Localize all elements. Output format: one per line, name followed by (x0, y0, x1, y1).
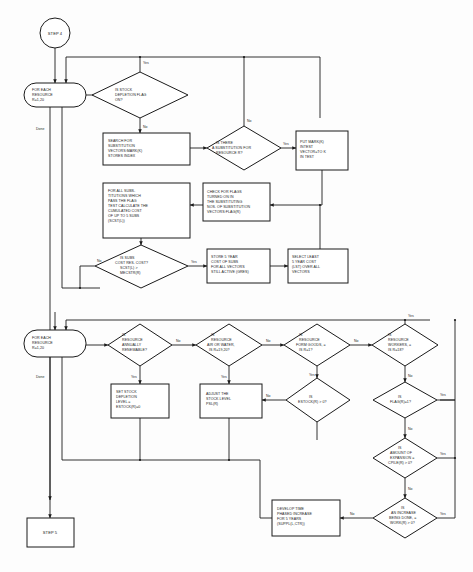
edge-label-done-1: Done (36, 127, 44, 131)
junction-dot-4 (319, 204, 321, 206)
node-p-search[interactable]: SEARCH FOR SUBSTITUTION VECTORS:MARK(K) … (103, 133, 190, 165)
junction-dot-3 (79, 287, 81, 289)
node-d-workers[interactable]: IS RESOURCE WORKERS, = IS R=18? (372, 324, 438, 366)
node-flagr-line2: FLAG(R)=1? (390, 400, 411, 404)
node-d-renewable[interactable]: IS RESOURCE ANNUALLY RENEWABLE? (108, 324, 172, 366)
node-adjuststock-line3: PSL(R) (206, 402, 218, 406)
connector-increase-yes (437, 458, 455, 518)
node-increase-line3: BEING DONE, = (389, 516, 416, 520)
edge-label-no-workers: No (408, 374, 413, 378)
node-d-stockflag[interactable]: IS STOCK DEPLETION FLAG ON? (92, 72, 188, 118)
node-workers-line2: RESOURCE (388, 338, 409, 342)
node-search-line3: VECTORS:MARK(K) (108, 149, 142, 153)
edge-label-no-estock: No (266, 394, 271, 398)
node-loop2[interactable]: FOR EACH RESOURCE R=1,20 (24, 330, 86, 357)
junction-dot (139, 56, 141, 58)
edge-label-no-increase: No (350, 512, 355, 516)
node-loop1-line2: RESOURCE (32, 93, 53, 97)
node-checkflags-line1: CHECK FOR FLAGS (207, 190, 242, 194)
node-flagr-line1: IS (398, 395, 402, 399)
node-adjuststock-line2: STOCK LEVEL (206, 397, 231, 401)
node-renewable-line4: RENEWABLE? (122, 348, 147, 352)
node-develop-line3: FOR 5 YEARS (277, 517, 302, 521)
node-p-setstock[interactable]: SET STOCK DEPLETION LEVEL = ESTOCK(R)=0 (111, 384, 169, 418)
node-forallsubs-line6: OF UP TO 5 SUBS (108, 214, 140, 218)
node-p-checkflags[interactable]: CHECK FOR FLAGS TURNED ON IN THE SUBSTIT… (203, 183, 270, 221)
node-formgoods-line1: IS (299, 333, 303, 337)
node-checkflags-line2: TURNED ON IN (207, 195, 234, 199)
node-expansion-line2: AMOUNT OF (390, 451, 413, 455)
node-p-develop[interactable]: DEVELOP TIME PHASED INCREASE FOR 5 YEARS… (272, 500, 340, 536)
node-workers-line4: IS R=18? (388, 348, 403, 352)
node-subscost-line2: COST RES. COST? (115, 261, 148, 265)
connector-develop-return (260, 460, 272, 518)
node-p-forallsubs[interactable]: FOR ALL SUBS- TITUTIONS WHICH PASS THE F… (103, 183, 190, 238)
node-d-subscost[interactable]: IS SUBS COST RES. COST? SCST(L) > MECSTR… (95, 245, 188, 288)
node-p-selectleast[interactable]: SELECT LEAST 5 YEAR COST (LST) OVER ALL … (288, 249, 348, 283)
node-setstock-line4: ESTOCK(R)=0 (116, 405, 140, 409)
junction-dot-5 (404, 319, 406, 321)
node-loop1[interactable]: FOR EACH RESOURCE R=1,20 (24, 83, 86, 107)
node-expansion-line3: EXPANSION = (390, 456, 414, 460)
node-d-flagr[interactable]: IS FLAG(R)=1? (373, 382, 437, 418)
node-setstock-line2: DEPLETION (116, 395, 137, 399)
node-d-formgoods[interactable]: IS RESOURCE FORM GOODS, = IS R=1? (284, 324, 350, 366)
node-d-estock[interactable]: IS ESTOCK(R) > 0? (286, 378, 350, 422)
edge-label-no-airwater: No (266, 339, 271, 343)
junction-dot-8 (454, 319, 456, 321)
node-d-expansion[interactable]: IS AMOUNT OF EXPANSION = CPILE(R) > 0? (373, 438, 437, 478)
node-loop2-line3: R=1,20 (32, 346, 44, 350)
edge-label-no-renewable: No (176, 339, 181, 343)
node-subscost-line4: MECSTR(R) (120, 271, 141, 275)
node-step4-label: STEP 4 (48, 31, 63, 36)
node-store5yr-line3: FOR ALL VECTORS (211, 265, 245, 269)
node-subscost-line1: IS SUBS (120, 256, 135, 260)
node-subexists-line1: IS THERE (216, 141, 233, 145)
node-increase-line1: IS (401, 506, 405, 510)
node-increase-line2: AN INCREASE (391, 511, 416, 515)
junction-dot-7 (228, 459, 230, 461)
node-step5[interactable]: STEP 5 (27, 518, 74, 547)
node-renewable-line3: ANNUALLY (122, 343, 142, 347)
node-loop2-line2: RESOURCE (32, 341, 53, 345)
node-formgoods-line2: RESOURCE (299, 338, 320, 342)
node-store5yr-line1: STORE 5 YEAR (211, 255, 238, 259)
edge-label-yes-workers: Yes (408, 314, 414, 318)
node-setstock-line1: SET STOCK (116, 390, 137, 394)
node-expansion-line1: IS (398, 446, 402, 450)
edge-label-yes-subscost: Yes (191, 260, 197, 264)
edge-label-yes-subexists: Yes (283, 142, 289, 146)
node-d-airwater[interactable]: IS RESOURCE AIR OR WATER, IS R=19,20? (196, 324, 262, 366)
node-develop-line4: (SUPPL(L,CTR)) (277, 522, 305, 526)
edge-label-yes-airwater: Yes (221, 375, 227, 379)
node-d-increase[interactable]: IS AN INCREASE BEING DONE, = WORK(R) > 0… (373, 498, 437, 538)
node-store5yr-line2: COST OF SUBS (211, 260, 239, 264)
node-develop-line1: DEVELOP TIME (277, 507, 305, 511)
node-forallsubs-line3: PASS THE FLAG (108, 199, 137, 203)
edge-label-done-2: Done (36, 375, 44, 379)
node-search-line1: SEARCH FOR (108, 139, 132, 143)
junction-dot-2 (243, 56, 245, 58)
node-putmark-line3: VECTOR=TO K (300, 150, 326, 154)
node-putmark-line4: IN TEST (300, 155, 315, 159)
connector-loop1-return (62, 107, 100, 288)
node-selectleast-line4: VECTORS (292, 270, 310, 274)
node-p-adjuststock[interactable]: ADJUST THE STOCK LEVEL PSL(R) (200, 384, 262, 418)
edge-label-yes-expansion: Yes (440, 452, 446, 456)
node-adjuststock-line1: ADJUST THE (206, 392, 229, 396)
node-setstock-line3: LEVEL = (116, 400, 131, 404)
node-step5-label: STEP 5 (43, 530, 58, 535)
flowchart-canvas: STEP 4 FOR EACH RESOURCE R=1,20 Done IS … (0, 0, 473, 572)
node-p-putmark[interactable]: PUT MARK(K) INTEST VECTOR=TO K IN TEST (296, 131, 348, 170)
node-loop1-line1: FOR EACH (32, 88, 51, 92)
edge-label-no-formgoods: No (354, 339, 359, 343)
node-step4[interactable]: STEP 4 (40, 18, 70, 48)
edge-label-no-stockflag: No (143, 125, 148, 129)
node-selectleast-line3: (LST) OVER ALL (292, 265, 320, 269)
node-estock-line1: IS (309, 395, 313, 399)
edge-label-yes-flagr: Yes (440, 393, 446, 397)
node-forallsubs-line1: FOR ALL SUBS- (108, 189, 136, 193)
node-p-store5yr[interactable]: STORE 5 YEAR COST OF SUBS FOR ALL VECTOR… (207, 249, 270, 283)
node-subexists-line2: A SUBSTITUTION FOR (212, 146, 251, 150)
node-d-subexists[interactable]: IS THERE A SUBSTITUTION FOR RESOURCE R? (207, 126, 281, 170)
